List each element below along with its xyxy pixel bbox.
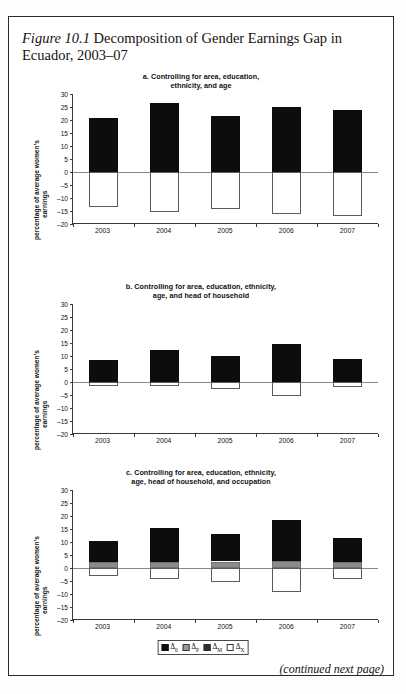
bar-segment-delta-x: [150, 568, 179, 579]
bar-segment-delta-0: [89, 118, 118, 172]
y-axis-label-line1: percentage of average women’s: [33, 350, 40, 450]
x-tick-mark: [378, 434, 379, 437]
y-tick-label: 10: [61, 353, 68, 360]
x-tick-label: 2007: [340, 227, 355, 234]
x-tick-label: 2005: [217, 227, 232, 234]
bar-segment-delta-0: [272, 344, 301, 382]
bar-segment-delta-0: [211, 116, 240, 172]
bar-segment-delta-0: [89, 541, 118, 562]
y-tick-mark: [70, 356, 73, 357]
bar-segment-delta-x: [89, 568, 118, 576]
bar-segment-delta-0: [272, 520, 301, 561]
y-tick-label: 25: [61, 104, 68, 111]
x-axis-labels-a: 20032004200520062007: [72, 227, 378, 239]
y-tick-label: –10: [57, 591, 68, 598]
y-axis-label-line2: earnings: [41, 191, 48, 218]
bar-segment-delta-x: [150, 382, 179, 386]
bar-segment-delta-0: [150, 528, 179, 562]
y-axis-label-c: percentage of average women’searnings: [24, 490, 46, 640]
y-tick-mark: [70, 490, 73, 491]
bar-segment-delta-x: [272, 172, 301, 214]
plot-area-c: percentage of average women’searnings302…: [18, 490, 384, 640]
y-tick-label: –5: [61, 392, 68, 399]
continued-note: (continued next page): [279, 662, 384, 677]
bar-segment-delta-0: [211, 534, 240, 562]
y-tick-mark: [70, 198, 73, 199]
bar-segment-delta-x: [211, 172, 240, 209]
y-tick-label: –15: [57, 208, 68, 215]
bar-segment-delta-0: [333, 110, 362, 172]
y-tick-label: 5: [64, 366, 68, 373]
y-tick-label: 20: [61, 117, 68, 124]
x-tick-label: 2004: [156, 437, 171, 444]
y-tick-label: 0: [64, 565, 68, 572]
x-tick-label: 2005: [217, 437, 232, 444]
y-tick-mark: [70, 317, 73, 318]
bar-segment-delta-0: [89, 360, 118, 382]
y-axis-label-line1: percentage of average women’s: [33, 140, 40, 240]
panel-title-c: c. Controlling for area, education, ethn…: [18, 468, 384, 486]
bar-segment-delta-x: [272, 568, 301, 592]
x-tick-label: 2007: [340, 623, 355, 630]
x-tick-label: 2006: [279, 437, 294, 444]
y-tick-label: –15: [57, 418, 68, 425]
x-tick-label: 2003: [95, 227, 110, 234]
panel-title-line1: c. Controlling for area, education, ethn…: [18, 468, 384, 477]
chart-panel-a: a. Controlling for area, education,ethni…: [18, 72, 384, 244]
y-tick-mark: [70, 408, 73, 409]
panel-title-b: b. Controlling for area, education, ethn…: [18, 282, 384, 300]
y-tick-mark: [70, 395, 73, 396]
bar-segment-delta-0: [333, 538, 362, 562]
y-tick-label: –5: [61, 578, 68, 585]
x-tick-label: 2005: [217, 623, 232, 630]
figure-title: Figure 10.1 Decomposition of Gender Earn…: [22, 30, 362, 64]
bar-segment-delta-x: [272, 382, 301, 396]
bar-segment-delta-x: [89, 172, 118, 207]
x-tick-mark: [378, 620, 379, 623]
legend-label-delta-0: Δ0: [170, 642, 178, 653]
y-tick-mark: [70, 343, 73, 344]
axis-area-b: 302520151050–5–10–15–2020032004200520062…: [48, 304, 378, 454]
y-tick-labels-b: 302520151050–5–10–15–20: [48, 304, 68, 434]
legend-swatch-delta-x: [227, 644, 234, 651]
plot-c: [72, 490, 378, 620]
y-tick-mark: [70, 211, 73, 212]
y-tick-label: 5: [64, 156, 68, 163]
bar-segment-delta-0: [333, 359, 362, 382]
plot-b: [72, 304, 378, 434]
chart-legend: Δ0ΔPΔMΔX: [158, 640, 249, 655]
y-tick-label: 20: [61, 513, 68, 520]
x-tick-label: 2003: [95, 437, 110, 444]
bar-segment-delta-x: [150, 172, 179, 212]
y-tick-mark: [70, 185, 73, 186]
chart-panel-b: b. Controlling for area, education, ethn…: [18, 282, 384, 454]
y-tick-label: 30: [61, 91, 68, 98]
bar-segment-delta-x: [333, 568, 362, 579]
legend-label-delta-x: ΔX: [236, 642, 245, 653]
y-tick-label: 15: [61, 526, 68, 533]
figure-label: Figure 10.1: [22, 30, 90, 46]
y-tick-labels-c: 302520151050–5–10–15–20: [48, 490, 68, 620]
y-tick-mark: [70, 120, 73, 121]
y-tick-label: 0: [64, 379, 68, 386]
bar-segment-delta-p: [272, 561, 301, 568]
x-axis: [73, 619, 378, 620]
legend-label-delta-m: ΔM: [213, 642, 223, 653]
y-tick-label: 10: [61, 143, 68, 150]
x-axis: [73, 433, 378, 434]
y-axis-label-line2: earnings: [41, 401, 48, 428]
y-axis-label-a: percentage of average women’searnings: [24, 94, 46, 244]
bar-segment-delta-0: [150, 103, 179, 172]
y-tick-label: –20: [57, 221, 68, 228]
y-tick-label: 15: [61, 340, 68, 347]
bar-segment-delta-x: [89, 382, 118, 386]
legend-item-delta-m: ΔM: [204, 642, 222, 653]
chart-panel-c: c. Controlling for area, education, ethn…: [18, 468, 384, 640]
y-tick-mark: [70, 555, 73, 556]
panel-title-a: a. Controlling for area, education,ethni…: [18, 72, 384, 90]
y-tick-label: 0: [64, 169, 68, 176]
legend-swatch-delta-p: [183, 644, 190, 651]
y-tick-label: 15: [61, 130, 68, 137]
plot-area-a: percentage of average women’searnings302…: [18, 94, 384, 244]
x-tick-label: 2003: [95, 623, 110, 630]
